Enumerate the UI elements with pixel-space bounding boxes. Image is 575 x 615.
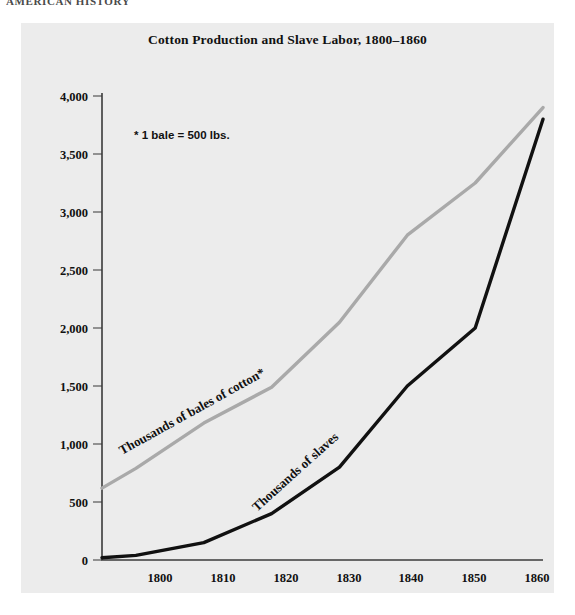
line-chart: 4,000 3,500 3,000 2,500 2,000 1,500 1,00… xyxy=(21,23,554,593)
x-axis-labels: 1800 1810 1820 1830 1840 1850 1860 xyxy=(148,571,550,585)
y-tick-label-1000: 1,000 xyxy=(60,438,88,452)
y-tick-label-2500: 2,500 xyxy=(60,264,88,278)
x-tick-label-1850: 1850 xyxy=(462,571,487,585)
x-tick-label-1830: 1830 xyxy=(337,571,362,585)
x-tick-label-1820: 1820 xyxy=(274,571,299,585)
y-tick-label-0: 0 xyxy=(82,554,88,568)
x-tick-label-1840: 1840 xyxy=(399,571,424,585)
y-tick-label-4000: 4,000 xyxy=(60,90,88,104)
footnote-note: * 1 bale = 500 lbs. xyxy=(134,129,230,141)
figure-panel: Cotton Production and Slave Labor, 1800–… xyxy=(21,23,554,593)
x-tick-label-1860: 1860 xyxy=(525,571,550,585)
y-axis-ticks xyxy=(93,96,102,560)
series-label-cotton: Thousands of bales of cotton* xyxy=(116,365,267,458)
y-tick-label-3000: 3,000 xyxy=(60,206,88,220)
x-tick-label-1800: 1800 xyxy=(148,571,173,585)
y-tick-label-2000: 2,000 xyxy=(60,322,88,336)
x-tick-label-1810: 1810 xyxy=(211,571,236,585)
running-head: AMERICAN HISTORY xyxy=(6,0,130,7)
y-axis-labels: 4,000 3,500 3,000 2,500 2,000 1,500 1,00… xyxy=(60,90,88,568)
y-tick-label-1500: 1,500 xyxy=(60,380,88,394)
y-tick-label-500: 500 xyxy=(69,496,88,510)
y-tick-label-3500: 3,500 xyxy=(60,148,88,162)
series-label-slaves: Thousands of slaves xyxy=(249,429,341,514)
